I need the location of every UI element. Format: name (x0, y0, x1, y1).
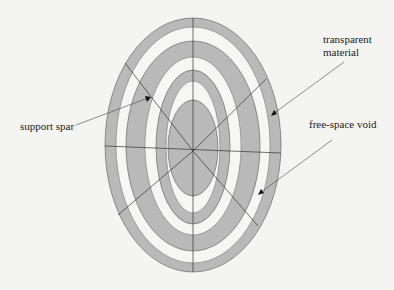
label-transparent-material-line2: material (323, 46, 372, 59)
label-free-space-void: free-space void (309, 118, 377, 131)
label-support-spar: support spar (20, 120, 74, 133)
label-transparent-material: transparent material (323, 33, 372, 59)
label-transparent-material-line1: transparent (323, 33, 372, 46)
leader-transparent-material (273, 62, 344, 114)
